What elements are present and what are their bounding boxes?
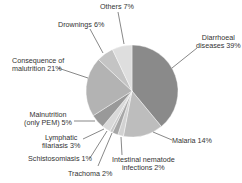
leader-line (90, 131, 107, 158)
leader-line (98, 133, 112, 166)
label-diarrhoeal: Diarrhoeal diseases 39% (196, 34, 241, 50)
label-malnutrition-line2: (only PEM) 5% (24, 119, 72, 127)
leader-line (153, 132, 172, 140)
pie-chart: Others 7% Drownings 6% Diarrhoeal diseas… (0, 0, 242, 183)
label-malnutrition: Malnutrition (only PEM) 5% (24, 111, 72, 127)
label-trachoma: Trachoma 2% (68, 170, 112, 178)
leader-line (121, 137, 122, 155)
leader-line (172, 48, 197, 68)
label-malaria: Malaria 14% (172, 137, 212, 145)
leader-line (83, 129, 104, 139)
label-drownings: Drownings 6% (58, 21, 104, 29)
leader-line (90, 29, 103, 53)
label-consequence-line2: malutrition 21% (12, 65, 64, 73)
label-intestinal-line2: infections 2% (112, 164, 175, 172)
label-diarrhoeal-line2: diseases 39% (196, 42, 241, 50)
label-others: Others 7% (100, 3, 134, 11)
label-schistosomiasis: Schistosomiasis 1% (28, 155, 92, 163)
label-lymphatic-line2: filariasis 3% (42, 142, 80, 150)
label-consequence: Consequence of malutrition 21% (12, 57, 64, 73)
leader-line (118, 12, 124, 44)
label-lymphatic: Lymphatic filariasis 3% (42, 134, 80, 150)
label-intestinal: Intestinal nematode infections 2% (112, 156, 175, 172)
